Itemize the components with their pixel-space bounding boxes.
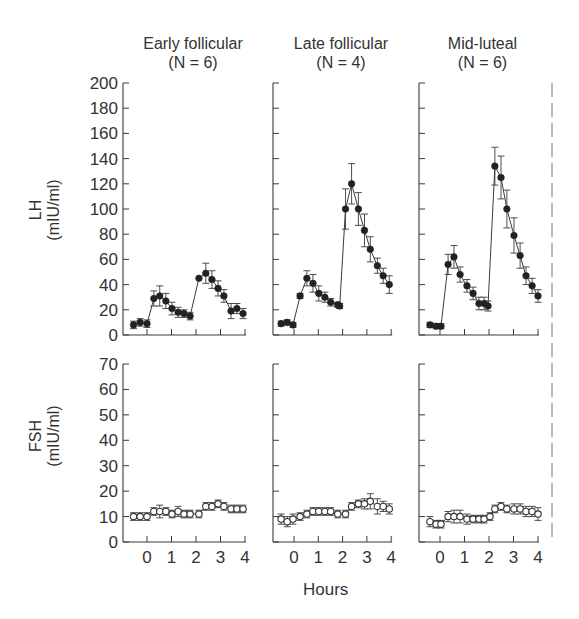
data-point <box>529 283 536 290</box>
data-point <box>504 206 511 213</box>
data-point <box>438 323 445 330</box>
x-tick-label: 1 <box>460 548 469 567</box>
data-point <box>196 275 203 282</box>
y-tick-label: 10 <box>99 508 118 527</box>
x-tick-label: 3 <box>509 548 518 567</box>
data-point <box>342 511 348 517</box>
data-point <box>355 206 362 213</box>
y-tick-label: 200 <box>90 74 118 93</box>
data-point <box>380 503 386 509</box>
y-tick-label: 70 <box>99 355 118 374</box>
data-point <box>523 272 530 279</box>
data-point <box>240 506 246 512</box>
y-tick-label: 60 <box>99 250 118 269</box>
data-point <box>290 516 296 522</box>
data-point <box>215 285 222 292</box>
y-tick-label: 60 <box>99 380 118 399</box>
data-point <box>451 254 458 261</box>
data-point <box>492 506 498 512</box>
data-point <box>451 513 457 519</box>
data-point <box>342 206 349 213</box>
data-point <box>386 281 393 288</box>
data-point <box>386 506 392 512</box>
data-point <box>144 320 151 327</box>
data-point <box>316 508 322 514</box>
data-point <box>470 290 477 297</box>
plot-area: 0204060801001201401601802000102030405060… <box>0 0 579 619</box>
data-point <box>304 275 311 282</box>
data-point <box>336 303 343 310</box>
y-tick-label: 20 <box>99 482 118 501</box>
data-point <box>445 261 452 268</box>
y-tick-label: 80 <box>99 225 118 244</box>
y-tick-label: 140 <box>90 150 118 169</box>
data-point <box>181 310 188 317</box>
y-tick-label: 40 <box>99 431 118 450</box>
data-point <box>427 322 434 329</box>
data-point <box>374 262 381 269</box>
data-point <box>485 303 492 310</box>
data-point <box>156 293 163 300</box>
data-point <box>163 508 169 514</box>
data-point <box>348 181 355 188</box>
data-point <box>492 163 499 170</box>
data-point <box>137 319 144 326</box>
y-tick-label: 160 <box>90 124 118 143</box>
data-point <box>163 298 170 305</box>
data-point <box>297 293 304 300</box>
y-tick-label: 20 <box>99 301 118 320</box>
data-point <box>487 513 493 519</box>
data-point <box>130 322 137 329</box>
data-point <box>511 232 518 239</box>
data-point <box>367 246 374 253</box>
x-tick-label: 0 <box>142 548 151 567</box>
data-point <box>322 294 329 301</box>
y-tick-label: 30 <box>99 457 118 476</box>
data-point <box>187 511 193 517</box>
data-point <box>335 511 341 517</box>
data-point <box>169 305 176 312</box>
data-point <box>457 271 464 278</box>
x-tick-label: 0 <box>435 548 444 567</box>
data-point <box>196 511 202 517</box>
data-point <box>203 270 210 277</box>
data-point <box>278 516 284 522</box>
data-point <box>361 227 368 234</box>
data-point <box>457 513 463 519</box>
data-point <box>504 506 510 512</box>
x-tick-label: 2 <box>338 548 347 567</box>
data-point <box>498 174 505 181</box>
data-point <box>535 293 542 300</box>
data-point <box>511 506 517 512</box>
y-tick-label: 180 <box>90 99 118 118</box>
y-tick-label: 0 <box>109 533 118 552</box>
data-point <box>427 518 433 524</box>
data-point <box>175 309 182 316</box>
data-point <box>315 290 322 297</box>
y-tick-label: 100 <box>90 200 118 219</box>
data-point <box>221 293 228 300</box>
x-tick-label: 4 <box>240 548 249 567</box>
data-point <box>240 310 247 317</box>
data-point <box>130 513 136 519</box>
data-point <box>157 508 163 514</box>
y-tick-label: 40 <box>99 276 118 295</box>
data-point <box>137 513 143 519</box>
y-tick-label: 0 <box>109 326 118 345</box>
data-point <box>310 280 317 287</box>
data-point <box>234 305 241 312</box>
data-point <box>209 276 216 283</box>
data-point <box>380 272 387 279</box>
data-point <box>517 252 524 259</box>
data-point <box>304 511 310 517</box>
data-point <box>234 506 240 512</box>
hormone-figure: Early follicular (N = 6) Late follicular… <box>0 0 579 619</box>
x-tick-label: 1 <box>314 548 323 567</box>
data-point <box>464 516 470 522</box>
data-point <box>464 283 471 290</box>
x-tick-label: 0 <box>289 548 298 567</box>
x-tick-label: 4 <box>533 548 542 567</box>
data-point <box>209 503 215 509</box>
data-point <box>327 299 334 306</box>
data-point <box>535 511 541 517</box>
